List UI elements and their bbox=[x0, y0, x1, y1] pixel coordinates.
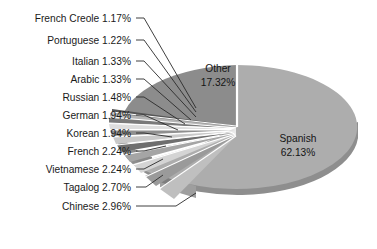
slice-label-other-value: 17.32% bbox=[201, 77, 236, 88]
pie-chart-page: French Creole 1.17% Portuguese 1.22% Ita… bbox=[0, 0, 377, 249]
callout-label-french-creole: French Creole 1.17% bbox=[35, 13, 131, 24]
callout-label-portuguese: Portuguese 1.22% bbox=[47, 35, 131, 46]
language-share-pie-chart: French Creole 1.17% Portuguese 1.22% Ita… bbox=[0, 0, 377, 249]
slice-label-spanish-name: Spanish bbox=[280, 133, 317, 144]
callout-label-french: French 2.24% bbox=[68, 146, 131, 157]
callout-label-chinese: Chinese 2.96% bbox=[62, 201, 131, 212]
callout-label-russian: Russian 1.48% bbox=[62, 92, 131, 103]
callout-label-vietnamese: Vietnamese 2.24% bbox=[46, 164, 131, 175]
callout-label-tagalog: Tagalog 2.70% bbox=[64, 182, 131, 193]
slice-label-other-name: Other bbox=[205, 63, 231, 74]
slice-label-spanish-value: 62.13% bbox=[281, 147, 316, 158]
callout-label-arabic: Arabic 1.33% bbox=[70, 74, 131, 85]
callout-label-german: German 1.94% bbox=[62, 110, 131, 121]
callout-label-italian: Italian 1.33% bbox=[72, 56, 131, 67]
callout-label-korean: Korean 1.94% bbox=[66, 128, 131, 139]
callout-labels-group: French Creole 1.17% Portuguese 1.22% Ita… bbox=[35, 13, 131, 212]
